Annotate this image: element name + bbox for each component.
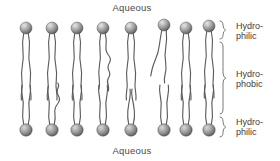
label-hydrophilic-bottom: Hydro- philic <box>236 118 263 137</box>
aqueous-label-bottom: Aqueous <box>0 145 272 156</box>
label-hydrophilic-bottom-line2: philic <box>236 128 263 138</box>
label-hydrophilic-top: Hydro- philic <box>236 22 263 41</box>
label-hydrophobic-line2: phobic <box>236 80 263 90</box>
label-hydrophobic: Hydro- phobic <box>236 70 263 89</box>
label-hydrophilic-top-line2: philic <box>236 32 263 42</box>
aqueous-label-top: Aqueous <box>0 2 272 13</box>
